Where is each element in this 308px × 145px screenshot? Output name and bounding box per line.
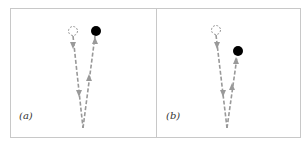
actual-target-icon [233,46,243,56]
arrow-down-icon [76,90,82,97]
virtual-target-icon [69,27,78,36]
arrow-up-icon [92,37,98,44]
virtual-target-icon [212,26,221,35]
arrow-down-icon [214,42,220,49]
arrow-down-icon [220,90,226,97]
arrow-up-icon [233,57,239,64]
arrow-up-icon [229,83,235,90]
actual-target-icon [91,26,101,36]
path-out-a [73,36,83,128]
panel-b [212,26,244,129]
diagram-canvas [0,0,308,145]
panel-a [69,26,102,128]
path-out-b [216,35,227,128]
path-return-b [227,57,237,128]
panel-b-label: (b) [166,110,180,121]
path-return-a [83,36,95,128]
panel-a-label: (a) [19,110,33,121]
arrow-up-icon [86,74,92,81]
